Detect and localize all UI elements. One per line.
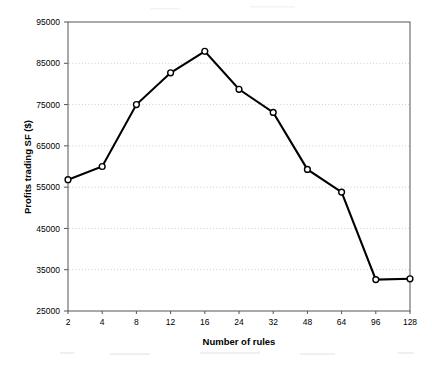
x-axis-title: Number of rules [203,336,276,347]
y-tick-label: 85000 [36,58,60,68]
data-point-marker [407,276,413,282]
x-tick-label: 96 [371,317,381,327]
data-point-marker [339,189,345,195]
plot-frame [68,22,410,311]
x-tick-label: 32 [268,317,278,327]
y-axis-title: Profits trading SF ($) [22,120,33,214]
line-chart: 2500035000450005500065000750008500095000… [0,0,432,369]
chart-container: 2500035000450005500065000750008500095000… [0,0,432,369]
y-tick-label: 95000 [36,17,60,27]
x-tick-label: 4 [100,317,105,327]
y-tick-label: 25000 [36,306,60,316]
data-point-marker [236,86,242,92]
data-point-marker [270,110,276,116]
x-tick-label: 24 [234,317,244,327]
data-point-marker [134,102,140,108]
data-point-marker [305,166,311,172]
y-tick-label: 65000 [36,141,60,151]
x-tick-label: 2 [66,317,71,327]
x-tick-label: 128 [403,317,417,327]
x-tick-label: 48 [303,317,313,327]
y-tick-label: 45000 [36,224,60,234]
data-point-marker [99,164,105,170]
x-tick-label: 16 [200,317,210,327]
x-tick-label: 64 [337,317,347,327]
data-point-marker [202,48,208,54]
data-point-marker [373,277,379,283]
y-tick-label: 75000 [36,100,60,110]
y-tick-label: 55000 [36,182,60,192]
x-tick-label: 8 [134,317,139,327]
data-point-marker [168,70,174,76]
x-tick-label: 12 [166,317,176,327]
data-point-marker [65,177,71,183]
y-tick-label: 35000 [36,265,60,275]
